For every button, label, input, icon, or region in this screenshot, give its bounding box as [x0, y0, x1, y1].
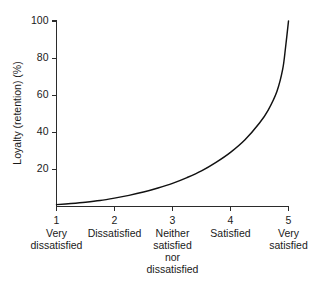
x-tick-label: 4: [228, 214, 234, 226]
y-tick-label: 100: [31, 14, 49, 26]
x-category-label: Satisfied: [210, 227, 250, 239]
chart-canvas: Loyalty (retention) (%) 20406080100 1234…: [0, 0, 323, 284]
x-tick-label-group: 12345: [54, 214, 292, 226]
y-tick-group: 20406080100: [31, 14, 57, 174]
y-tick-label: 60: [37, 88, 49, 100]
loyalty-satisfaction-chart: Loyalty (retention) (%) 20406080100 1234…: [0, 0, 323, 284]
loyalty-curve-line: [57, 21, 289, 205]
x-category-label: Verysatisfied: [269, 227, 308, 251]
y-tick-label: 80: [37, 51, 49, 63]
x-tick-group: [57, 207, 289, 212]
x-category-label: Verydissatisfied: [31, 227, 83, 251]
x-tick-label: 5: [286, 214, 292, 226]
x-category-label: Neithersatisfiednordissatisfied: [147, 227, 199, 275]
x-tick-label: 1: [54, 214, 60, 226]
series-group: [57, 21, 289, 205]
x-category-label: Dissatisfied: [88, 227, 142, 239]
x-category-label-group: VerydissatisfiedDissatisfiedNeithersatis…: [31, 227, 308, 275]
y-tick-label: 20: [37, 162, 49, 174]
y-axis-label: Loyalty (retention) (%): [11, 61, 23, 164]
x-tick-label: 2: [112, 214, 118, 226]
y-tick-label: 40: [37, 125, 49, 137]
x-tick-label: 3: [170, 214, 176, 226]
